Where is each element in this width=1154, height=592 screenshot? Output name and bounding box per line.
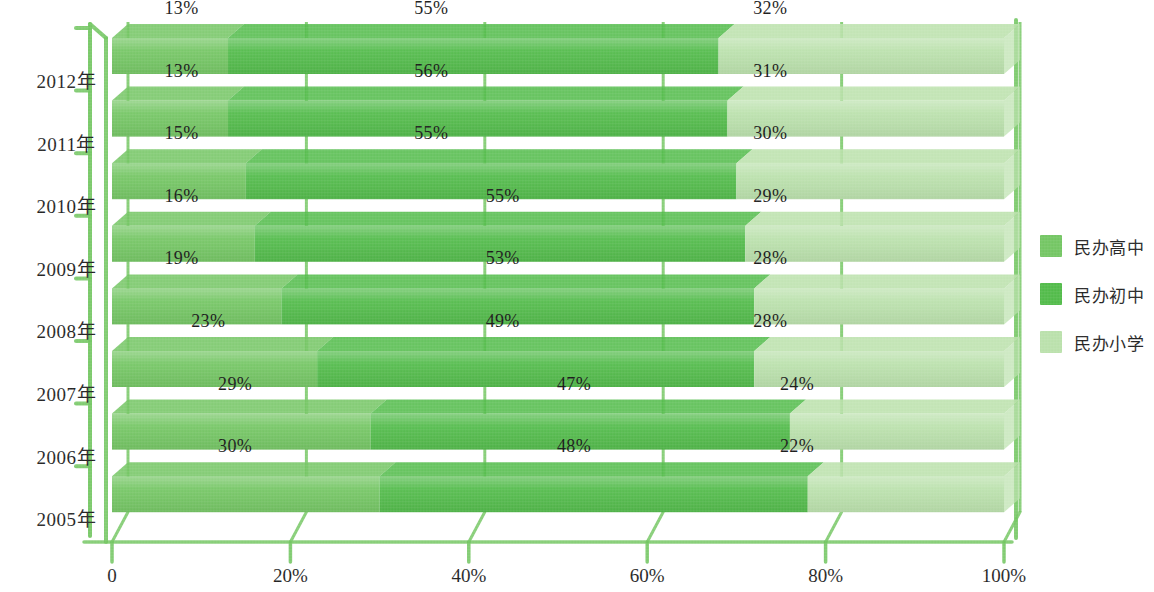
bar-value-label: 55% <box>414 0 448 19</box>
stacked-bar-chart: 2012年2011年2010年2009年2008年2007年2006年2005年… <box>0 0 1154 592</box>
bar-value-label: 23% <box>191 311 225 332</box>
legend-label: 民办高中 <box>1074 234 1144 259</box>
legend-item[interactable]: 民办高中 <box>1040 222 1154 270</box>
y-axis-tick-label: 2011年 <box>4 129 96 156</box>
bar-value-label: 55% <box>486 186 520 207</box>
bar-value-label: 24% <box>780 374 814 395</box>
bar-value-label: 28% <box>753 311 787 332</box>
y-axis-tick-label: 2007年 <box>4 379 96 406</box>
bar-value-label: 22% <box>780 436 814 457</box>
bar-value-label: 16% <box>165 186 199 207</box>
legend-color-swatch <box>1040 331 1062 353</box>
legend-item[interactable]: 民办初中 <box>1040 270 1154 318</box>
y-axis-tick-label: 2005年 <box>4 504 96 531</box>
bar-value-label: 32% <box>753 0 787 19</box>
bar-value-label: 28% <box>753 248 787 269</box>
y-axis-tick-label: 2009年 <box>4 254 96 281</box>
bar-value-label: 13% <box>165 61 199 82</box>
bar-value-label: 15% <box>165 123 199 144</box>
bar-value-label: 55% <box>414 123 448 144</box>
legend-label: 民办小学 <box>1074 330 1144 355</box>
chart-plot-area <box>0 0 1154 592</box>
legend-label: 民办初中 <box>1074 282 1144 307</box>
y-axis-tick-label: 2012年 <box>4 66 96 93</box>
bar-value-label: 13% <box>165 0 199 19</box>
y-axis-tick-label: 2006年 <box>4 442 96 469</box>
x-axis-tick-label: 0 <box>107 565 117 587</box>
bar-value-label: 29% <box>753 186 787 207</box>
bar-value-label: 53% <box>486 248 520 269</box>
legend-color-swatch <box>1040 283 1062 305</box>
x-axis-tick-label: 40% <box>451 565 486 587</box>
x-axis-tick-label: 100% <box>982 565 1026 587</box>
x-axis-tick-label: 20% <box>273 565 308 587</box>
bar-value-label: 29% <box>218 374 252 395</box>
bar-value-label: 47% <box>557 374 591 395</box>
bar-value-label: 56% <box>414 61 448 82</box>
bar-value-label: 31% <box>753 61 787 82</box>
legend-item[interactable]: 民办小学 <box>1040 318 1154 366</box>
bar-value-label: 30% <box>218 436 252 457</box>
legend-color-swatch <box>1040 235 1062 257</box>
y-axis-tick-label: 2008年 <box>4 316 96 343</box>
chart-legend: 民办高中民办初中民办小学 <box>1040 222 1154 366</box>
x-axis-tick-label: 60% <box>630 565 665 587</box>
bar-value-label: 30% <box>753 123 787 144</box>
x-axis-tick-label: 80% <box>808 565 843 587</box>
bar-value-label: 19% <box>165 248 199 269</box>
bar-value-label: 48% <box>557 436 591 457</box>
bar-value-label: 49% <box>486 311 520 332</box>
y-axis-tick-label: 2010年 <box>4 191 96 218</box>
